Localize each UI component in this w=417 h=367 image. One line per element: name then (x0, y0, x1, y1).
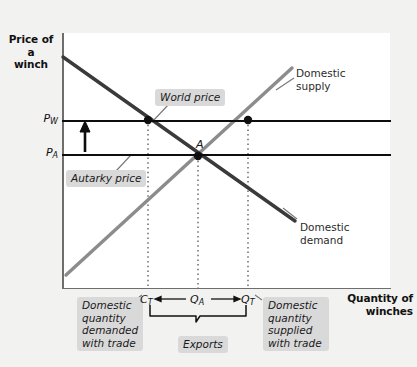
price-rise-arrow-icon (80, 121, 90, 152)
domestic-supply-label: Domestic supply (296, 67, 345, 92)
quantity-marker-qa-subscript: A (199, 298, 204, 307)
figure-container: Price of a winch Quantity of winches PW … (0, 0, 417, 367)
quantity-marker-qt: QT (241, 293, 255, 307)
quantity-marker-qa: QA (190, 293, 204, 307)
autarky-price-tick-subscript: A (53, 151, 58, 160)
quantity-marker-qt-base: Q (241, 293, 250, 306)
exports-callout: Exports (178, 336, 228, 353)
quantity-marker-ct-base: C (140, 293, 148, 306)
world-price-tick: PW (30, 112, 58, 126)
quantity-marker-ct-subscript: T (148, 298, 153, 307)
exports-brace (150, 305, 246, 322)
world-price-callout: World price (155, 89, 225, 106)
right-block-leader-line (255, 295, 262, 300)
quantity-marker-ct: CT (140, 293, 153, 307)
autarky-price-leader-line (116, 155, 131, 171)
point-a-label: A (196, 138, 204, 151)
quantity-marker-qt-subscript: T (250, 298, 255, 307)
y-axis-title: Price of a winch (4, 33, 58, 71)
domestic-quantity-demanded-callout: Domestic quantity demanded with trade (77, 297, 143, 351)
domestic-quantity-supplied-callout: Domestic quantity supplied with trade (263, 297, 329, 351)
autarky-price-line (62, 154, 391, 156)
autarky-price-tick: PA (30, 146, 58, 160)
autarky-price-tick-base: P (46, 146, 53, 159)
domestic-demand-label: Domestic demand (300, 221, 349, 246)
world-price-line (62, 120, 391, 122)
domestic-demand-curve (63, 57, 295, 221)
autarky-price-callout: Autarky price (66, 170, 146, 187)
world-price-tick-subscript: W (50, 117, 58, 126)
quantity-marker-qa-base: Q (190, 293, 199, 306)
